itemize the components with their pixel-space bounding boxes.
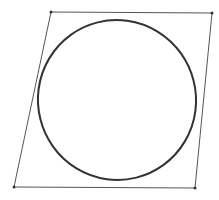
vertex-bottom-right	[194, 187, 197, 190]
parallelogram	[14, 12, 212, 188]
inscribed-ellipse	[21, 3, 213, 196]
vertex-markers	[13, 11, 214, 190]
vertex-bottom-left	[13, 186, 16, 189]
vertex-top-left	[50, 11, 53, 14]
diagram-canvas	[0, 0, 219, 200]
vertex-top-right	[211, 12, 214, 15]
